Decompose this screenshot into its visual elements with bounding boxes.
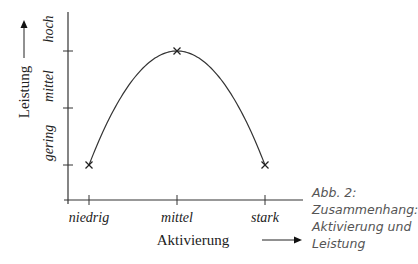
y-tick-label: hoch (41, 15, 56, 42)
figure-caption: Abb. 2: Zusammenhang: Aktivierung und Le… (312, 184, 417, 252)
caption-line: Abb. 2: (312, 184, 417, 201)
data-point-x-marker (262, 162, 269, 169)
data-point-x-marker (86, 162, 93, 169)
caption-line: Zusammenhang: (312, 201, 417, 218)
x-axis-arrowhead-icon (294, 237, 302, 244)
performance-curve (89, 51, 265, 165)
x-tick-label: mittel (161, 210, 193, 225)
caption-line: Aktivierung und (312, 218, 417, 235)
caption-line: Leistung (312, 235, 417, 252)
y-axis-title: Leistung (16, 65, 32, 118)
y-tick-label: mittel (41, 70, 56, 102)
x-tick-label: niedrig (69, 210, 109, 225)
x-tick-label: stark (251, 210, 280, 225)
y-tick-label: gering (41, 125, 56, 162)
x-axis-title: Aktivierung (157, 232, 230, 248)
y-axis-arrowhead-icon (21, 20, 28, 28)
